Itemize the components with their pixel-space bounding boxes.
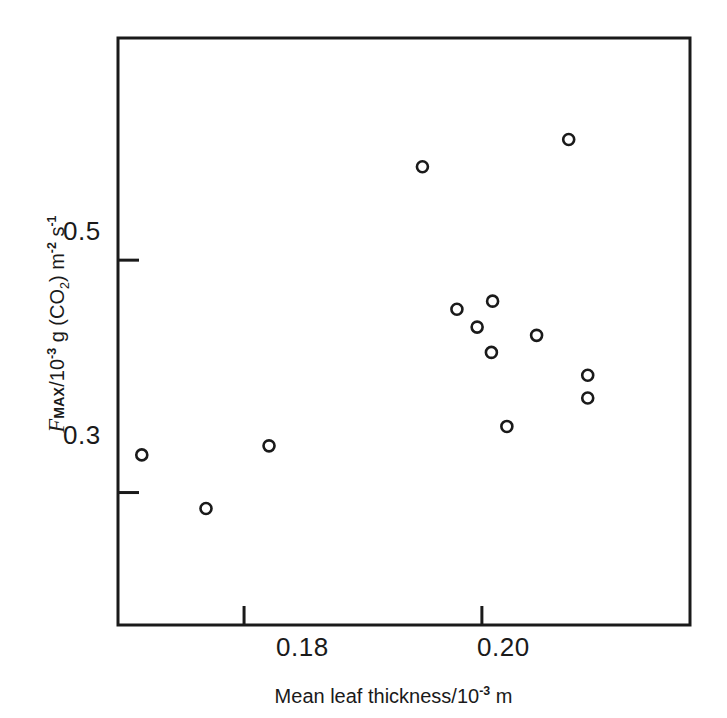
y-axis-exp1: -3 [45, 348, 59, 359]
x-axis-title: Mean leaf thickness/10-3 m [0, 684, 727, 708]
x-tick-label: 0.20 [477, 632, 530, 663]
y-axis-symbol: F [44, 419, 69, 433]
x-tick-label: 0.18 [276, 632, 329, 663]
y-axis-gas-close: ) m [46, 253, 68, 282]
y-axis-exp2: -2 [45, 242, 59, 253]
y-axis-unit-s: s [46, 227, 68, 243]
y-axis-title: FMAX/10-3 g (CO2) m-2 s-1 [44, 84, 72, 564]
y-axis-subscript: MAX [51, 387, 67, 419]
x-axis-title-suffix: m [490, 685, 512, 707]
x-axis-title-exponent: -3 [479, 684, 490, 698]
x-axis-title-prefix: Mean leaf thickness/10 [275, 685, 480, 707]
plot-canvas [0, 0, 727, 718]
figure-background [0, 0, 727, 718]
scatter-plot-figure: 0.18 0.20 0.3 0.5 Mean leaf thickness/10… [0, 0, 727, 718]
y-axis-gas-subscript: 2 [58, 282, 72, 289]
y-axis-exp3: -1 [45, 216, 59, 227]
y-axis-mid: /10 [46, 359, 68, 387]
y-axis-gas: g (CO [46, 289, 68, 348]
